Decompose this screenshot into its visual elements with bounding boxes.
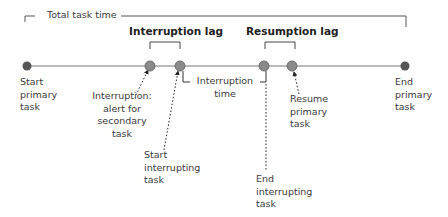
label-resume-primary: Resume primary task (290, 93, 328, 131)
pointer-start-interrupting (164, 71, 178, 150)
resumption-lag-bracket (265, 42, 295, 49)
timeline-diagram (0, 0, 448, 217)
label-start-interrupting: Start interrupting task (144, 149, 200, 187)
interruption-time-label: Interruption time (194, 75, 256, 100)
point-end-primary (401, 62, 410, 71)
interruption-time-right-bracket (260, 71, 266, 82)
label-interruption-alert: Interruption: alert for secondary task (92, 90, 152, 140)
label-end-interrupting: End interrupting task (256, 173, 312, 211)
point-end-interrupting (259, 61, 269, 71)
point-start-primary (23, 62, 32, 71)
point-start-interrupting (175, 61, 185, 71)
label-end-primary: End primary task (395, 76, 432, 114)
label-start-primary: Start primary task (20, 76, 57, 114)
resumption-lag-label: Resumption lag (246, 25, 339, 38)
point-resume-primary (287, 61, 297, 71)
pointer-resume-primary (294, 72, 299, 94)
interruption-lag-label: Interruption lag (129, 25, 223, 38)
point-interruption-alert (145, 61, 155, 71)
interruption-lag-bracket (150, 42, 180, 49)
total-task-time-label: Total task time (43, 9, 121, 22)
interruption-time-left-bracket (183, 71, 190, 82)
